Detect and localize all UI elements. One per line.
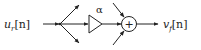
adder-input-top-arrow [113, 3, 124, 17]
output-label: vf[n] [163, 18, 187, 33]
adder-input-bottom-arrow [113, 31, 124, 45]
signal-flow-diagram: ur[n] α + vf[n] [0, 0, 201, 50]
gain-label: α [96, 4, 103, 15]
adder-plus-sign: + [124, 18, 133, 31]
branch-up-arrow [60, 5, 79, 24]
gain-triangle [89, 15, 102, 33]
branch-down-arrow [60, 24, 79, 43]
input-label: ur[n] [4, 18, 30, 33]
